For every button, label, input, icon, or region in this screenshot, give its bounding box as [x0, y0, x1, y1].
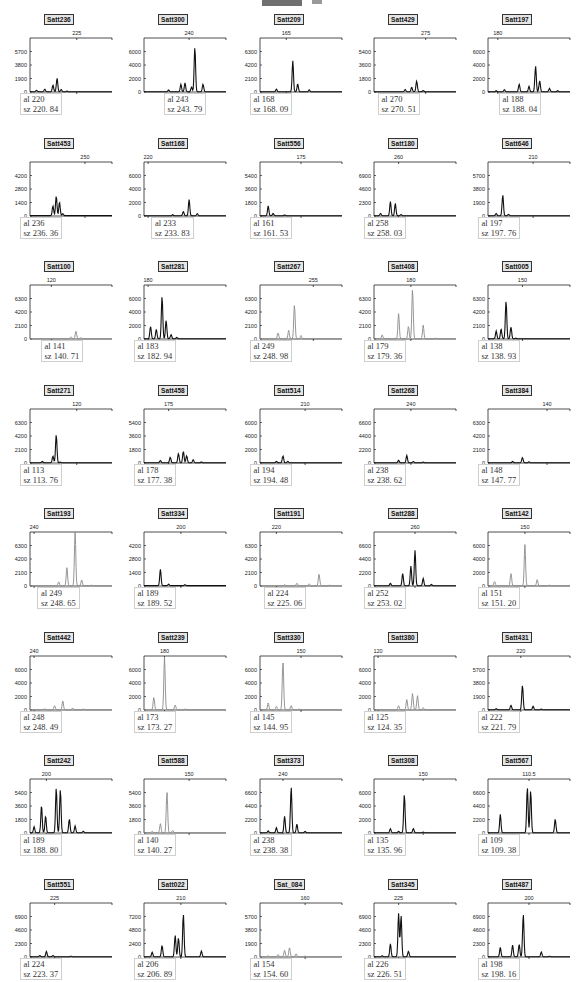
y-tick-label: 6900 [473, 913, 485, 919]
size-value: sz 194. 48 [254, 475, 289, 485]
axes [374, 409, 456, 463]
size-value: sz 236. 36 [24, 228, 59, 238]
fluorescence-trace [144, 199, 226, 215]
fluorescence-trace [488, 915, 570, 957]
y-tick-label: 2000 [245, 446, 257, 452]
electropherogram-panel: Satt2682400220044006600al 238sz 238. 62 [352, 385, 464, 505]
y-tick-label: 6900 [15, 913, 27, 919]
axes [260, 779, 342, 833]
electropherogram-panel: Satt2362250190038005700al 220sz 220. 84 [8, 14, 120, 134]
x-reference-label: 150 [185, 771, 194, 777]
allele-value: al 173 [138, 712, 173, 722]
allele-value: al 189 [138, 588, 173, 598]
y-tick-label: 1800 [129, 446, 141, 452]
trace-plot: 2000140028004200 [122, 518, 234, 598]
allele-value: al 206 [138, 959, 173, 969]
trace-plot: 2400220044006600 [238, 765, 350, 845]
allele-value: al 168 [254, 94, 289, 104]
allele-value: al 220 [24, 94, 59, 104]
panel-row: Satt1001200210042006300al 141sz 140. 71S… [0, 261, 581, 385]
y-tick-label: 6000 [129, 666, 141, 672]
y-tick-label: 6000 [15, 666, 27, 672]
axes [260, 903, 342, 957]
trace-plot: 2250230046006900 [8, 889, 120, 969]
x-reference-label: 160 [301, 895, 310, 901]
y-tick-label: 6000 [129, 172, 141, 178]
y-tick-label: 6000 [245, 419, 257, 425]
y-tick-label: 0 [254, 583, 257, 589]
trace-plot: 1200210042006300 [8, 395, 120, 475]
allele-callout: al 178sz 177. 38 [134, 464, 177, 486]
allele-callout: al 238sz 238. 62 [364, 464, 407, 486]
trace-plot: 2200190038005700 [466, 642, 578, 722]
trace-plot: 2250230046006900 [352, 889, 464, 969]
electropherogram-panel: Satt3732400220044006600al 238sz 238. 38 [238, 755, 350, 875]
y-tick-label: 6000 [129, 296, 141, 302]
size-value: sz 109. 38 [482, 845, 517, 855]
electropherogram-panel: Satt3801200200040006000al 125sz 124. 35 [352, 632, 464, 752]
y-tick-label: 0 [138, 89, 141, 95]
fluorescence-trace [144, 297, 226, 338]
trace-plot: 2100240048007200 [122, 889, 234, 969]
y-tick-label: 2100 [473, 323, 485, 329]
trace-plot: 2400210042006300 [8, 518, 120, 598]
electropherogram-panel: Satt2811800200040006000al 183sz 182. 94 [122, 261, 234, 381]
electropherogram-panel: Satt2711200210042006300al 113sz 113. 76 [8, 385, 120, 505]
size-value: sz 253. 02 [368, 598, 403, 608]
x-reference-label: 210 [301, 401, 310, 407]
y-tick-label: 4600 [359, 927, 371, 933]
size-value: sz 220. 84 [24, 104, 59, 114]
trace-plot: 2100200040006000 [238, 395, 350, 475]
y-tick-label: 7200 [129, 913, 141, 919]
x-reference-label: 240 [406, 401, 415, 407]
allele-callout: al 113sz 113. 76 [20, 464, 62, 486]
y-tick-label: 6600 [359, 419, 371, 425]
allele-value: al 189 [24, 835, 59, 845]
y-tick-label: 6000 [359, 790, 371, 796]
allele-value: al 226 [368, 959, 403, 969]
fluorescence-trace [488, 195, 570, 215]
y-tick-label: 2100 [15, 446, 27, 452]
size-value: sz 182. 94 [138, 351, 173, 361]
y-tick-label: 4000 [359, 680, 371, 686]
axes [374, 656, 456, 710]
electropherogram-panel: Satt4532500140028004200al 236sz 236. 36 [8, 138, 120, 258]
y-tick-label: 5400 [359, 49, 371, 55]
allele-value: al 249 [41, 588, 76, 598]
electropherogram-panel: Satt3841400210042006300al 148sz 147. 77 [466, 385, 578, 505]
y-tick-label: 5700 [15, 49, 27, 55]
y-tick-label: 4400 [359, 556, 371, 562]
y-tick-label: 6000 [473, 49, 485, 55]
size-value: sz 147. 77 [482, 475, 517, 485]
x-reference-label: 120 [47, 277, 56, 283]
y-tick-label: 2000 [473, 570, 485, 576]
y-tick-label: 4400 [359, 433, 371, 439]
electropherogram-panel: Satt2422000180036005400al 189sz 188. 80 [8, 755, 120, 875]
allele-value: al 236 [24, 218, 59, 228]
x-reference-label: 120 [374, 648, 383, 654]
electropherogram-panel: Satt4312200190038005700al 222sz 221. 79 [466, 632, 578, 752]
fluorescence-trace [260, 205, 342, 215]
axes [260, 38, 342, 92]
y-tick-label: 5400 [245, 172, 257, 178]
allele-callout: al 109sz 109. 38 [478, 834, 521, 856]
axes [144, 532, 226, 586]
allele-value: al 179 [368, 341, 403, 351]
allele-callout: al 248sz 248. 49 [20, 711, 63, 733]
y-tick-label: 2100 [15, 570, 27, 576]
y-tick-label: 2000 [129, 323, 141, 329]
x-reference-label: 220 [272, 524, 281, 530]
size-value: sz 188. 80 [24, 845, 59, 855]
trace-plot: 1750180036005400 [238, 148, 350, 228]
y-tick-label: 2000 [359, 817, 371, 823]
panel-row: Satt5512250230046006900al 224sz 223. 37S… [0, 879, 581, 982]
electropherogram-panel: Satt3002400200040006000al 243sz 243. 79 [122, 14, 234, 134]
y-tick-label: 5700 [473, 172, 485, 178]
size-value: sz 198. 16 [482, 969, 517, 979]
electropherogram-panel: Satt4422400200040006000al 248sz 248. 49 [8, 632, 120, 752]
trace-plot: 2250190038005700 [8, 24, 120, 104]
y-tick-label: 2000 [359, 693, 371, 699]
fluorescence-trace [488, 457, 570, 462]
allele-value: al 125 [368, 712, 403, 722]
axes [488, 38, 570, 92]
